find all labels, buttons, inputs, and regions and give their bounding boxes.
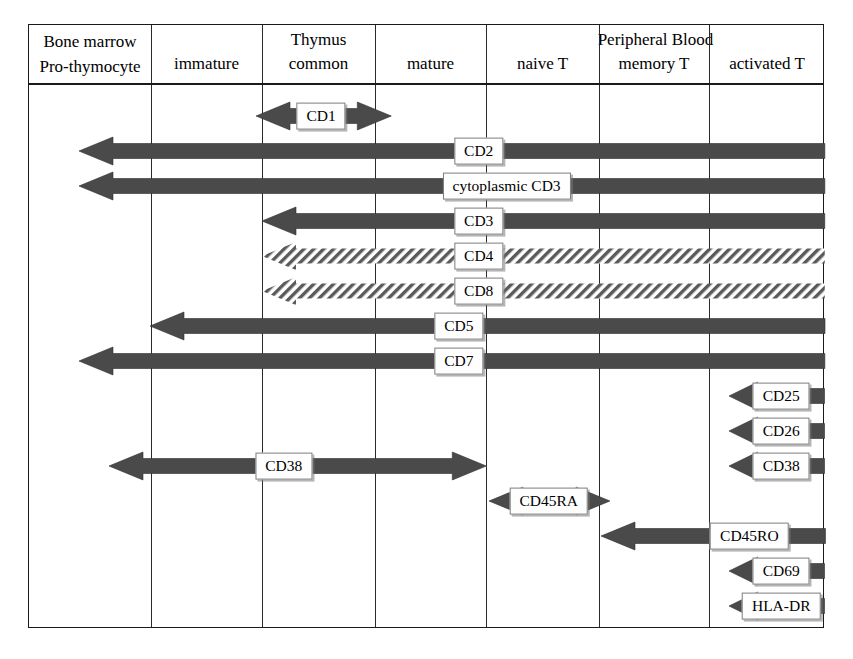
marker-label-cd25: CD25 xyxy=(753,383,810,410)
marker-label-cd38a: CD38 xyxy=(255,453,312,480)
marker-row: CD69 xyxy=(29,554,823,588)
marker-row: HLA-DR xyxy=(29,589,823,623)
header-column-label-memory-t: memory T xyxy=(599,54,709,74)
marker-label-cd7: CD7 xyxy=(434,348,483,375)
marker-label-hladr: HLA-DR xyxy=(742,593,821,620)
marker-row: CD45RO xyxy=(29,519,823,553)
marker-label-cd45ro: CD45RO xyxy=(710,523,789,550)
marker-row: CD5 xyxy=(29,309,823,343)
header-column-label-activated-t: activated T xyxy=(709,54,825,74)
marker-label-cd4: CD4 xyxy=(454,243,503,270)
marker-label-cd3: CD3 xyxy=(454,208,503,235)
marker-arrow-cd4 xyxy=(262,239,825,273)
header-column-label-common: common xyxy=(262,54,375,74)
marker-arrow-cd5 xyxy=(150,309,825,343)
marker-row: CD4 xyxy=(29,239,823,273)
header-baseline xyxy=(29,83,823,85)
marker-row: CD7 xyxy=(29,344,823,378)
marker-row: CD1 xyxy=(29,99,823,133)
marker-row: CD2 xyxy=(29,134,823,168)
header-column-label-naive-t: naive T xyxy=(486,54,599,74)
header-group-label: Thymus xyxy=(151,30,486,50)
marker-label-cd8: CD8 xyxy=(454,278,503,305)
marker-arrow-cd3 xyxy=(262,204,825,238)
marker-row: cytoplasmic CD3 xyxy=(29,169,823,203)
marker-label-cd26: CD26 xyxy=(753,418,810,445)
header-column-label-mature: mature xyxy=(375,54,486,74)
marker-row: CD26 xyxy=(29,414,823,448)
marker-row: CD25 xyxy=(29,379,823,413)
marker-row: CD38 xyxy=(29,449,823,483)
header-column-label-immature: immature xyxy=(151,54,262,74)
marker-row: CD3 xyxy=(29,204,823,238)
marker-label-cd45ra: CD45RA xyxy=(509,488,588,515)
marker-label-cd2: CD2 xyxy=(454,138,503,165)
marker-arrow-cd8 xyxy=(262,274,825,308)
header-group-label: Peripheral Blood xyxy=(486,30,825,50)
header-column-label-bone-marrow: Bone marrowPro-thymocyte xyxy=(29,30,151,79)
marker-arrow-cd2 xyxy=(79,134,825,168)
marker-label-ccd3: cytoplasmic CD3 xyxy=(443,173,571,200)
marker-expression-diagram: ThymusPeripheral BloodBone marrowPro-thy… xyxy=(28,24,824,628)
marker-label-cd69: CD69 xyxy=(753,558,810,585)
marker-row: CD8 xyxy=(29,274,823,308)
marker-label-cd5: CD5 xyxy=(434,313,483,340)
table-header: ThymusPeripheral BloodBone marrowPro-thy… xyxy=(29,25,823,83)
marker-row: CD45RA xyxy=(29,484,823,518)
marker-label-cd1: CD1 xyxy=(296,103,345,130)
